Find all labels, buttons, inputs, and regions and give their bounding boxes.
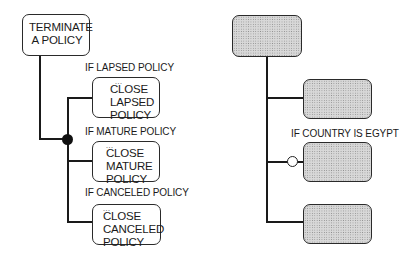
canceled-line-3: POLICY (103, 236, 164, 249)
connector-canceled (67, 221, 93, 223)
close-mature-policy-box: ... CLOSE MATURE POLICY (92, 141, 160, 182)
canceled-line-1: CLOSE (103, 210, 164, 223)
condition-open-circle-icon (287, 156, 298, 167)
right-trunk (266, 57, 268, 223)
shaded-branch-box-1 (303, 79, 372, 119)
shaded-branch-box-3 (303, 204, 372, 244)
shaded-root-box (232, 15, 302, 57)
condition-lapsed-label: IF LAPSED POLICY (85, 62, 174, 73)
close-canceled-policy-box: ... CLOSE CANCELED POLICY (92, 204, 161, 245)
mature-line-1: CLOSE (106, 147, 153, 160)
shaded-branch-box-2 (303, 142, 372, 182)
lapsed-line-1: CLOSE (110, 83, 154, 96)
condition-mature-label: IF MATURE POLICY (85, 126, 176, 137)
condition-egypt-label: IF COUNTRY IS EGYPT (291, 128, 399, 139)
terminate-policy-box: TERMINATE A POLICY (22, 14, 90, 56)
root-line-1: TERMINATE (29, 21, 85, 34)
root-line-2: A POLICY (29, 34, 85, 47)
condition-canceled-label: IF CANCELED POLICY (85, 187, 189, 198)
right-connector-1 (266, 97, 304, 99)
close-lapsed-policy-box: ... CLOSE LAPSED POLICY (92, 77, 160, 118)
root-connector-vertical (39, 56, 41, 140)
connector-lapsed (67, 97, 93, 99)
right-connector-3 (266, 221, 304, 223)
lapsed-line-2: LAPSED (110, 96, 154, 109)
connector-mature (67, 160, 93, 162)
junction-filled-circle-icon (62, 134, 73, 145)
right-connector-2 (266, 161, 304, 163)
canceled-line-2: CANCELED (103, 223, 164, 236)
lapsed-line-3: POLICY (110, 109, 154, 122)
mature-line-2: MATURE (106, 160, 153, 173)
mature-line-3: POLICY (106, 173, 153, 186)
